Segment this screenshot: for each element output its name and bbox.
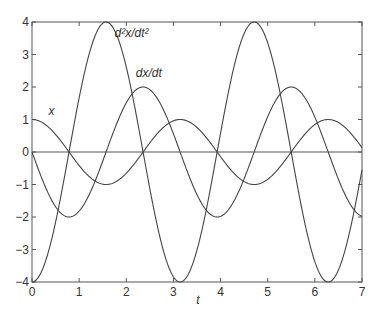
curve-label: d²x/dt²	[115, 26, 150, 40]
x-tick-label: 7	[359, 285, 366, 299]
chart: 01234567−4−3−2−101234 xdx/dtd²x/dt² t	[0, 0, 380, 318]
x-tick-label: 4	[217, 285, 224, 299]
x-tick-label: 2	[123, 285, 130, 299]
plot-frame	[32, 22, 362, 282]
y-tick-label: 1	[22, 113, 29, 127]
y-tick-label: 4	[22, 15, 29, 29]
x-tick-label: 6	[312, 285, 319, 299]
curve-labels: xdx/dtd²x/dt²	[48, 26, 163, 118]
x-tick-label: 1	[76, 285, 83, 299]
y-tick-label: −4	[15, 275, 29, 289]
x-tick-label: 0	[29, 285, 36, 299]
y-tick-label: −2	[15, 210, 29, 224]
y-tick-label: 0	[22, 145, 29, 159]
x-tick-label: 5	[264, 285, 271, 299]
curve-label: x	[48, 104, 56, 118]
y-tick-label: 2	[22, 80, 29, 94]
curve-label: dx/dt	[136, 66, 163, 80]
y-tick-label: −3	[15, 243, 29, 257]
x-axis-label: t	[196, 293, 200, 307]
y-tick-label: −1	[15, 178, 29, 192]
x-tick-label: 3	[170, 285, 177, 299]
y-tick-label: 3	[22, 48, 29, 62]
